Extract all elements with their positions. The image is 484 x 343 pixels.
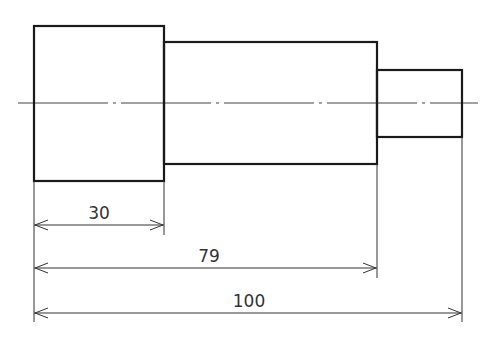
shaft-drawing: 30 79 100 [0,0,484,343]
dimension-label-79: 79 [198,246,220,266]
dimension-79: 79 [34,246,377,273]
dimension-label-100: 100 [233,291,265,311]
dimension-label-30: 30 [88,203,110,223]
dimension-30: 30 [34,203,164,230]
dimension-100: 100 [34,291,462,318]
